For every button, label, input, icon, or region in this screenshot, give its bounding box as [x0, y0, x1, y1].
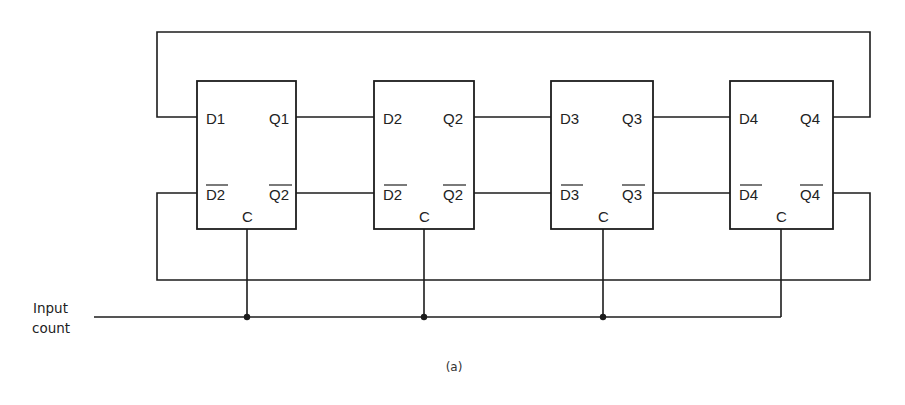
qbar-output-label: Q2	[443, 186, 463, 203]
qbar-output-label: Q3	[622, 186, 642, 203]
flip-flop-1: D1 Q1 D2 Q2 C	[197, 81, 296, 229]
clock-label: C	[598, 208, 609, 225]
figure-caption: (a)	[446, 360, 463, 374]
flip-flop-box	[551, 81, 653, 229]
flip-flop-box	[374, 81, 474, 229]
flip-flop-box	[197, 81, 296, 229]
junction-dot-ff3	[600, 314, 606, 320]
flip-flop-2: D2 Q2 D2 Q2 C	[374, 81, 474, 229]
clock-label: C	[242, 208, 253, 225]
clock-label: C	[776, 208, 787, 225]
qbar-output-label: Q4	[800, 186, 820, 203]
d-input-label: D1	[206, 110, 225, 127]
flip-flop-box	[730, 81, 833, 229]
q-output-label: Q3	[622, 110, 642, 127]
flip-flop-3: D3 Q3 D3 Q3 C	[551, 81, 653, 229]
ring-counter-diagram: D1 Q1 D2 Q2 C D2 Q2 D2 Q2 C D3 Q3 D3 Q3 …	[0, 0, 905, 405]
input-label-line1: Input	[33, 300, 68, 316]
junction-dot-ff1	[244, 314, 250, 320]
dbar-input-label: D4	[739, 186, 758, 203]
dbar-input-label: D3	[560, 186, 579, 203]
input-label-line2: count	[32, 320, 70, 336]
d-input-label: D2	[383, 110, 402, 127]
flip-flop-4: D4 Q4 D4 Q4 C	[730, 81, 833, 229]
qbar-output-label: Q2	[269, 186, 289, 203]
q-output-label: Q4	[800, 110, 820, 127]
dbar-input-label: D2	[206, 186, 225, 203]
clock-label: C	[419, 208, 430, 225]
junction-dot-ff2	[421, 314, 427, 320]
d-input-label: D4	[739, 110, 758, 127]
d-input-label: D3	[560, 110, 579, 127]
dbar-input-label: D2	[383, 186, 402, 203]
q-output-label: Q2	[443, 110, 463, 127]
q-output-label: Q1	[269, 110, 289, 127]
